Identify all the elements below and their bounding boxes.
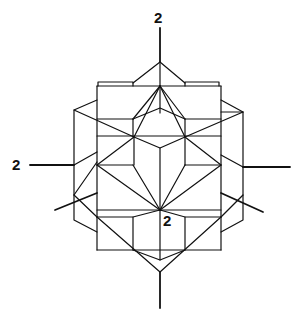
- crystal-diagram: 2 2 2: [0, 0, 300, 321]
- center-axis-label: 2: [163, 213, 171, 228]
- top-axis-label: 2: [154, 10, 162, 25]
- crystal-drawing: [0, 0, 300, 321]
- crystal-edges: [74, 62, 243, 272]
- left-axis-label: 2: [12, 157, 20, 172]
- left-diagonal-axis: [55, 193, 97, 210]
